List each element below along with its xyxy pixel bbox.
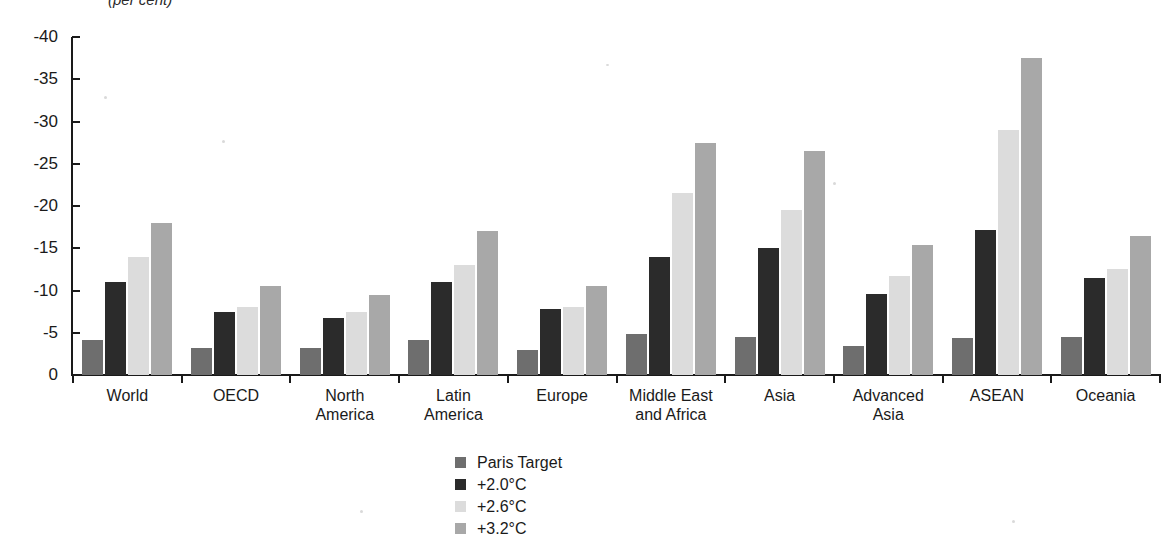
- x-axis-category-label: OECD: [182, 386, 291, 405]
- legend-label: +3.2°C: [477, 521, 527, 537]
- chart-legend: Paris Target+2.0°C+2.6°C+3.2°C: [455, 452, 562, 540]
- bar: [649, 257, 670, 375]
- y-axis-tick: [72, 78, 80, 80]
- legend-swatch-icon: [455, 457, 466, 468]
- x-axis-tick: [942, 376, 944, 383]
- x-axis-tick: [181, 376, 183, 383]
- y-axis-tick: [72, 205, 80, 207]
- bar: [626, 334, 647, 375]
- x-axis-category-label: Oceania: [1051, 386, 1160, 405]
- y-axis-tick: [72, 163, 80, 165]
- y-axis-tick-label: -5: [0, 324, 58, 341]
- x-axis-category-line: America: [290, 405, 399, 424]
- x-axis-category-line: Middle East: [617, 386, 726, 405]
- x-axis-category-label: Europe: [508, 386, 617, 405]
- bar-chart: (per cent) -40-35-30-25-20-15-10-50 Worl…: [0, 0, 1168, 552]
- y-axis-tick-label: -10: [0, 282, 58, 299]
- bar: [105, 282, 126, 375]
- y-axis-tick: [72, 247, 80, 249]
- x-axis-category-line: ASEAN: [943, 386, 1052, 405]
- bar: [1107, 269, 1128, 375]
- bar: [237, 307, 258, 375]
- x-axis-tick: [398, 376, 400, 383]
- x-axis-category-label: ASEAN: [943, 386, 1052, 405]
- legend-item: Paris Target: [455, 452, 562, 473]
- bar: [781, 210, 802, 375]
- legend-swatch-icon: [455, 479, 466, 490]
- x-axis-tick: [616, 376, 618, 383]
- bar: [804, 151, 825, 375]
- bar: [300, 348, 321, 375]
- y-axis-tick-label: -30: [0, 113, 58, 130]
- scan-speckle: [1012, 520, 1015, 523]
- y-axis-tick-label: -15: [0, 239, 58, 256]
- x-axis-category-line: Advanced: [834, 386, 943, 405]
- x-axis-category-line: Oceania: [1051, 386, 1160, 405]
- bar: [191, 348, 212, 375]
- x-axis-category-label: World: [73, 386, 182, 405]
- bar: [369, 295, 390, 375]
- bar: [975, 230, 996, 375]
- bar: [214, 312, 235, 375]
- bar: [563, 307, 584, 375]
- bar: [431, 282, 452, 375]
- y-axis-tick: [72, 290, 80, 292]
- legend-label: +2.6°C: [477, 499, 527, 515]
- x-axis-category-label: Middle Eastand Africa: [617, 386, 726, 424]
- bar: [889, 276, 910, 375]
- bar: [866, 294, 887, 375]
- x-axis-category-line: North: [290, 386, 399, 405]
- bar: [1021, 58, 1042, 375]
- x-axis-tick: [1159, 376, 1161, 383]
- x-axis-category-line: World: [73, 386, 182, 405]
- scan-speckle: [833, 182, 836, 185]
- x-axis-category-label: Asia: [725, 386, 834, 405]
- bar: [1061, 337, 1082, 375]
- bar: [735, 337, 756, 375]
- legend-label: +2.0°C: [477, 477, 527, 493]
- bar: [952, 338, 973, 375]
- legend-item: +2.6°C: [455, 496, 562, 517]
- bar: [128, 257, 149, 375]
- bar: [346, 312, 367, 375]
- y-axis-tick: [72, 121, 80, 123]
- bar: [672, 193, 693, 375]
- legend-swatch-icon: [455, 501, 466, 512]
- y-axis-tick-label: -40: [0, 28, 58, 45]
- x-axis-tick: [724, 376, 726, 383]
- x-axis-tick: [507, 376, 509, 383]
- x-axis-category-line: Latin: [399, 386, 508, 405]
- x-axis-category-line: Asia: [725, 386, 834, 405]
- x-axis-category-label: NorthAmerica: [290, 386, 399, 424]
- legend-item: +2.0°C: [455, 474, 562, 495]
- unit-label: (per cent): [108, 0, 172, 8]
- bar: [323, 318, 344, 375]
- y-axis-tick-label: -35: [0, 70, 58, 87]
- bar: [477, 231, 498, 375]
- x-axis-tick: [1050, 376, 1052, 383]
- x-axis-category-label: LatinAmerica: [399, 386, 508, 424]
- bar: [82, 340, 103, 375]
- scan-speckle: [222, 140, 225, 143]
- bar: [843, 346, 864, 375]
- scan-speckle: [360, 510, 363, 513]
- x-axis-category-line: and Africa: [617, 405, 726, 424]
- scan-speckle: [104, 96, 107, 99]
- y-axis-tick: [72, 332, 80, 334]
- x-axis-tick: [72, 376, 74, 383]
- bar: [1084, 278, 1105, 375]
- x-axis-tick: [833, 376, 835, 383]
- bar: [586, 286, 607, 375]
- x-axis-tick: [289, 376, 291, 383]
- legend-item: +3.2°C: [455, 518, 562, 539]
- y-axis-tick-label: -25: [0, 155, 58, 172]
- bar: [695, 143, 716, 375]
- y-axis-tick-label: -20: [0, 197, 58, 214]
- scan-speckle: [606, 64, 609, 66]
- bar: [998, 130, 1019, 375]
- bar: [151, 223, 172, 375]
- bar: [260, 286, 281, 375]
- bar: [517, 350, 538, 375]
- bar: [758, 248, 779, 375]
- bar: [1130, 236, 1151, 375]
